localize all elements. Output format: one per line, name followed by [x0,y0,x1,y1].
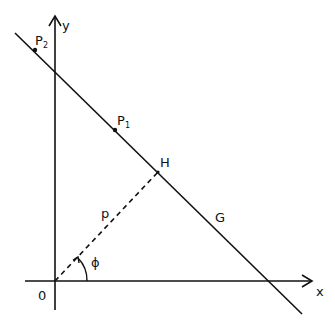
perp-p-label: p [101,206,109,221]
hesse-normal-form-diagram: y x 0 G H p ϕ P 1 P 2 [0,0,335,326]
y-axis [49,16,61,310]
x-axis-label: x [316,284,324,299]
angle-phi-label: ϕ [91,255,100,270]
point-h-label: H [160,155,170,170]
y-axis-label: y [62,18,70,33]
point-h-marker [156,170,159,173]
point-p1-label: P [117,113,125,128]
point-p1-subscript: 1 [125,121,130,130]
angle-arrowhead [73,257,79,263]
line-g-label: G [215,210,225,225]
origin-label: 0 [38,288,46,303]
point-p1-marker [113,128,117,132]
perpendicular-p [55,172,158,281]
point-p2-label: P [35,33,43,48]
point-p2-marker [33,48,37,52]
point-p2-subscript: 2 [43,41,48,50]
